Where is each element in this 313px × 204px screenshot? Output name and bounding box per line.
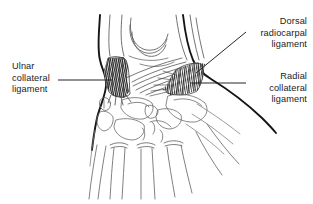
- carpal-bones: [97, 94, 207, 142]
- label-ulnar-collateral-ligament: Ulnar collateral ligament: [12, 61, 50, 96]
- distal-radius-articular-surface: [130, 18, 168, 56]
- leader-line-dorsal-radiocarpal: [196, 32, 246, 73]
- metacarpal-bases: [110, 141, 183, 148]
- radial-collateral-ligament-hatch: [150, 60, 205, 97]
- distal-forearm-outline: [129, 56, 174, 66]
- ulna-shaft: [109, 15, 124, 56]
- skin-contour-ulnar-side: [92, 15, 106, 150]
- metacarpal-shafts: [89, 124, 239, 199]
- wrist-ligament-figure: Ulnar collateral ligament Dorsal radioca…: [0, 0, 313, 204]
- label-radial-collateral-ligament: Radial collateral ligament: [269, 71, 307, 106]
- label-dorsal-radiocarpal-ligament: Dorsal radiocarpal ligament: [260, 16, 307, 51]
- soft-tissue-contours: [90, 104, 240, 166]
